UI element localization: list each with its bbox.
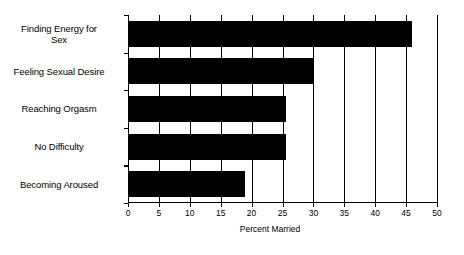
bar-row xyxy=(128,134,437,160)
bar xyxy=(128,96,286,122)
bar xyxy=(128,171,245,197)
y-axis-label-text: Finding Energy for Sex xyxy=(0,23,122,45)
y-axis-labels: Finding Energy for SexFeeling Sexual Des… xyxy=(0,15,122,203)
bar-row xyxy=(128,58,437,84)
x-axis-tick-label: 30 xyxy=(309,208,318,218)
x-axis-tick-label: 40 xyxy=(370,208,379,218)
x-axis-tick-label: 25 xyxy=(278,208,287,218)
plot-area xyxy=(128,15,437,203)
x-axis-tick-mark xyxy=(375,203,376,207)
x-axis-tick-label: 20 xyxy=(247,208,256,218)
x-axis-tick-mark xyxy=(221,203,222,207)
bar xyxy=(128,21,412,47)
x-axis-tick-label: 35 xyxy=(340,208,349,218)
y-axis-label-text: Feeling Sexual Desire xyxy=(0,66,122,77)
y-axis-label: No Difficulty xyxy=(0,128,122,166)
x-axis-tick-mark xyxy=(159,203,160,207)
y-axis-label-text: Reaching Orgasm xyxy=(0,103,122,114)
x-axis-tick-label: 50 xyxy=(432,208,441,218)
y-axis-tick-mark xyxy=(124,165,129,166)
x-axis-tick-label: 10 xyxy=(185,208,194,218)
x-axis-tick-mark xyxy=(313,203,314,207)
y-axis-label-text: No Difficulty xyxy=(0,141,122,152)
y-axis-tick-mark xyxy=(124,90,129,91)
bar-row xyxy=(128,96,437,122)
x-axis-tick-mark xyxy=(283,203,284,207)
x-axis-tick-mark xyxy=(437,203,438,207)
bar xyxy=(128,58,313,84)
x-axis-tick-mark xyxy=(252,203,253,207)
y-axis-label: Reaching Orgasm xyxy=(0,90,122,128)
x-axis-tick-label: 0 xyxy=(126,208,131,218)
bar xyxy=(128,134,286,160)
x-axis-tick-label: 5 xyxy=(157,208,162,218)
bar-row xyxy=(128,171,437,197)
x-axis-tick-label: 45 xyxy=(401,208,410,218)
y-axis-label: Feeling Sexual Desire xyxy=(0,53,122,91)
x-axis-tick-mark xyxy=(406,203,407,207)
y-axis-tick-mark xyxy=(124,203,129,204)
y-axis-tick-mark xyxy=(124,128,129,129)
x-axis-tick-mark xyxy=(344,203,345,207)
bar-chart: Finding Energy for SexFeeling Sexual Des… xyxy=(0,0,464,255)
y-axis-tick-mark xyxy=(124,53,129,54)
x-axis-tick-label: 15 xyxy=(216,208,225,218)
y-axis-label-text: Becoming Aroused xyxy=(0,179,122,190)
gridline xyxy=(437,15,438,203)
y-axis-label: Finding Energy for Sex xyxy=(0,15,122,53)
bar-row xyxy=(128,21,437,47)
x-axis-tick-mark xyxy=(190,203,191,207)
y-axis-tick-mark xyxy=(124,15,129,16)
x-axis-title-text: Percent Married xyxy=(240,224,300,234)
y-axis-label: Becoming Aroused xyxy=(0,165,122,203)
x-axis-title: Percent Married xyxy=(0,224,464,234)
